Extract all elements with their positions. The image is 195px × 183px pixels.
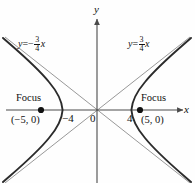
focus-right-title: Focus xyxy=(141,93,166,104)
asym-left-sign: − xyxy=(28,38,34,49)
asym-right-fraction: 34 xyxy=(139,36,145,53)
focus-left-coordinates: (−5, 0) xyxy=(11,115,40,126)
x-axis-label: x xyxy=(184,104,189,115)
focus-left-point xyxy=(38,107,44,113)
asymptote-right-equation-label: y=34x xyxy=(128,36,150,53)
y-axis-label: y xyxy=(94,4,99,15)
asym-right-variable: x xyxy=(145,38,149,49)
focus-right-coordinates: (5, 0) xyxy=(141,115,164,126)
asymptote-left-equation-label: y=−34x xyxy=(18,36,45,53)
focus-right-point xyxy=(137,107,143,113)
x-tick-label-negative-4: −4 xyxy=(62,113,74,124)
hyperbola-figure: y x 0 −4 4 Focus (−5, 0) Focus (5, 0) y=… xyxy=(0,0,195,183)
asym-right-denominator: 4 xyxy=(139,45,145,53)
origin-label: 0 xyxy=(90,113,96,124)
asym-right-equals: = xyxy=(132,38,138,49)
asym-left-denominator: 4 xyxy=(34,45,40,53)
asym-left-fraction: 34 xyxy=(34,36,40,53)
asym-left-variable: x xyxy=(41,38,45,49)
focus-left-title: Focus xyxy=(16,93,41,104)
x-tick-label-positive-4: 4 xyxy=(127,113,133,124)
